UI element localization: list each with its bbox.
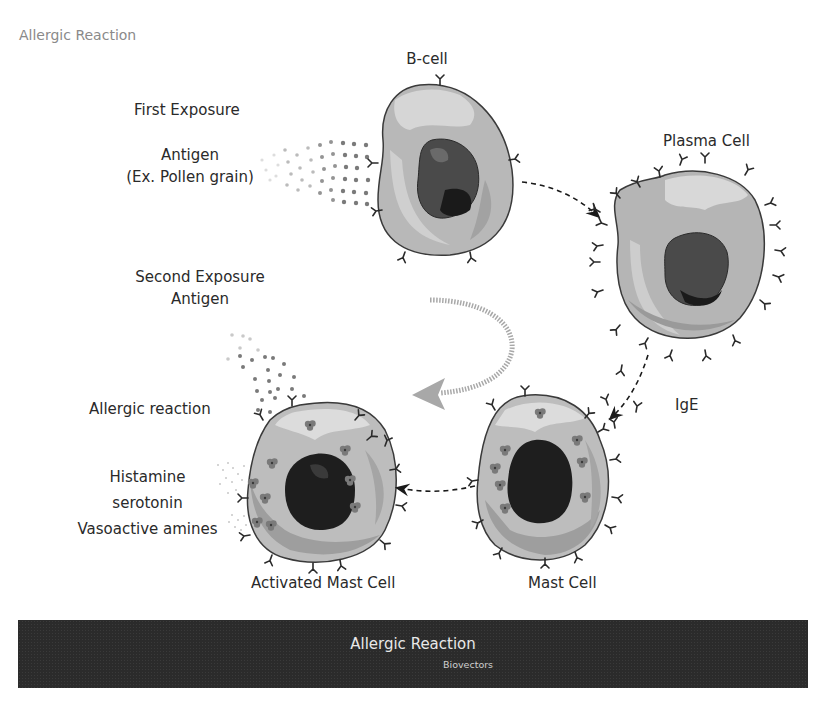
footer-banner: Allergic Reaction Biovectors <box>18 620 808 688</box>
arrow-plasma-to-mast <box>611 355 648 418</box>
diagram-title: Allergic Reaction <box>19 26 136 45</box>
antigen-label: Antigen <box>100 146 280 165</box>
footer-title: Allergic Reaction <box>18 635 808 653</box>
ige-antibodies <box>601 394 642 428</box>
second-exposure-arrow <box>412 300 512 410</box>
arrow-bcell-to-plasma <box>522 182 598 216</box>
second-exposure-label: Second Exposure <box>110 268 290 287</box>
arrow-mast-to-activated <box>398 486 475 491</box>
mast-cell-label: Mast Cell <box>528 574 597 593</box>
first-exposure-label: First Exposure <box>134 101 240 120</box>
activated-mast-cell-illustration <box>238 396 407 573</box>
antigen-example-label: (Ex. Pollen grain) <box>100 168 280 187</box>
allergic-reaction-diagram <box>0 0 825 706</box>
mast-cell-illustration <box>467 386 622 568</box>
allergic-reaction-label: Allergic reaction <box>89 400 211 419</box>
antigen-particles-second <box>226 333 306 414</box>
b-cell-label: B-cell <box>392 50 462 69</box>
plasma-cell-illustration <box>589 153 785 376</box>
vasoactive-amines-label: Vasoactive amines <box>65 520 230 539</box>
footer-subtitle: Biovectors <box>443 659 493 670</box>
second-antigen-label: Antigen <box>110 290 290 309</box>
ige-label: IgE <box>675 396 698 415</box>
plasma-cell-label: Plasma Cell <box>663 132 750 151</box>
histamine-label: Histamine <box>65 468 230 487</box>
b-cell-illustration <box>368 75 520 263</box>
serotonin-label: serotonin <box>65 494 230 513</box>
activated-mast-cell-label: Activated Mast Cell <box>251 574 395 593</box>
